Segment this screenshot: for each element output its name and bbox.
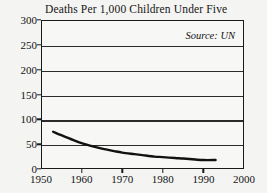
data-series-line	[41, 20, 244, 169]
x-tick-label-1950: 1950	[30, 173, 52, 185]
y-tick-label-150: 150	[0, 89, 37, 101]
x-tick-mark-1990	[203, 169, 204, 173]
series-path	[53, 132, 215, 160]
x-tick-label-2000: 2000	[233, 173, 255, 185]
x-tick-mark-1970	[121, 169, 122, 173]
x-tick-mark-1980	[162, 169, 163, 173]
x-tick-label-1990: 1990	[192, 173, 214, 185]
y-tick-label-250: 250	[0, 39, 37, 51]
x-tick-label-1960: 1960	[71, 173, 93, 185]
y-tick-label-300: 300	[0, 14, 37, 26]
chart-screenshot: Deaths Per 1,000 Children Under Five Sou…	[0, 0, 267, 193]
x-tick-label-1970: 1970	[111, 173, 133, 185]
y-tick-label-200: 200	[0, 64, 37, 76]
x-tick-label-1980: 1980	[152, 173, 174, 185]
page-title: Deaths Per 1,000 Children Under Five	[45, 3, 227, 15]
y-tick-label-100: 100	[0, 113, 37, 125]
y-tick-label-50: 50	[0, 138, 37, 150]
x-tick-mark-1960	[81, 169, 82, 173]
